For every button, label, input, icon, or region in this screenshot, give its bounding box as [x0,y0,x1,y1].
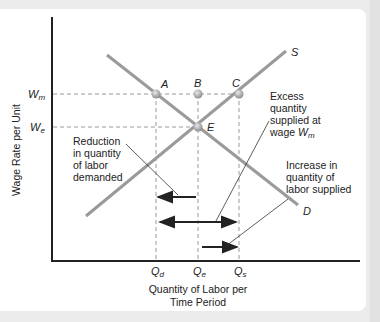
tick-qd: Qd [151,265,165,279]
svg-text:supplied at: supplied at [270,114,321,126]
annotation-increase: Increase in quantity of labor supplied [286,159,352,195]
x-axis-title-line1: Quantity of Labor per [149,283,248,295]
label-demand: D [303,205,311,217]
svg-text:of labor: of labor [73,159,109,171]
point-a [152,90,161,99]
labor-market-diagram: A B C E S D Wm We Qd Qe Qs Quantity of L… [0,0,380,322]
svg-text:Excess: Excess [270,90,304,102]
label-b: B [194,77,201,89]
leader-lines [126,121,288,246]
label-c: C [232,77,240,89]
svg-text:demanded: demanded [73,171,123,183]
annotation-excess: Excess quantity supplied at wage Wm [269,90,321,140]
point-c [235,90,244,99]
svg-text:in quantity: in quantity [73,147,122,159]
tick-qs: Qs [234,265,247,279]
svg-text:Increase in: Increase in [286,159,338,171]
tick-wm: Wm [28,88,45,102]
label-a: A [160,78,168,90]
supply-curve [86,51,286,216]
annotation-reduction: Reduction in quantity of labor demanded [73,135,123,183]
svg-text:wage Wm: wage Wm [269,126,315,140]
svg-text:quantity: quantity [270,102,308,114]
label-e: E [207,121,215,133]
point-e [194,123,203,132]
x-axis-title-line2: Time Period [170,296,226,308]
svg-text:Reduction: Reduction [73,135,120,147]
svg-text:labor supplied: labor supplied [286,183,352,195]
tick-we: We [30,121,45,135]
svg-text:quantity of: quantity of [286,171,335,183]
tick-qe: Qe [193,265,207,279]
y-axis-title: Wage Rate per Unit [10,104,22,196]
label-supply: S [291,46,299,58]
point-b [194,90,203,99]
